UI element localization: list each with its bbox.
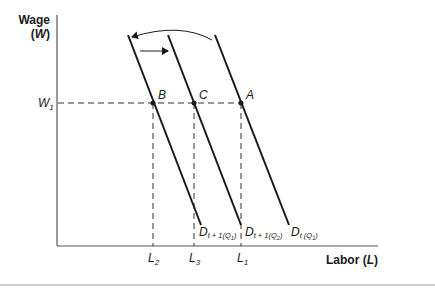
x-axis-label: Labor (L) <box>326 253 378 267</box>
labor-demand-diagram: Wage (W) W1 B C A Dt + 1(Q1) Dt + 1(Q2) … <box>0 0 435 289</box>
labor-tick-l2: L2 <box>148 251 160 267</box>
demand-curve-t-q1 <box>215 35 289 225</box>
point-b-marker <box>151 101 156 106</box>
point-a-label: A <box>245 88 254 102</box>
y-axis-label-line2: (W) <box>31 27 50 41</box>
point-b-label: B <box>158 88 166 102</box>
curved-shift-arrow-icon <box>132 30 212 40</box>
demand-curve-t1-q1 <box>128 35 201 225</box>
wage-level-label: W1 <box>38 96 54 112</box>
point-c-marker <box>192 101 197 106</box>
curve-label-t1-q1: Dt + 1(Q1) <box>199 225 237 241</box>
point-c-label: C <box>199 88 208 102</box>
curve-label-t-q1: Dt (Q1) <box>291 225 318 241</box>
labor-tick-l3: L3 <box>189 251 201 267</box>
y-axis-label-line1: Wage <box>18 13 50 27</box>
curve-label-t1-q2: Dt + 1(Q2) <box>245 225 283 241</box>
point-a-marker <box>239 101 244 106</box>
labor-tick-l1: L1 <box>237 251 248 267</box>
demand-curve-t1-q2 <box>168 35 241 225</box>
